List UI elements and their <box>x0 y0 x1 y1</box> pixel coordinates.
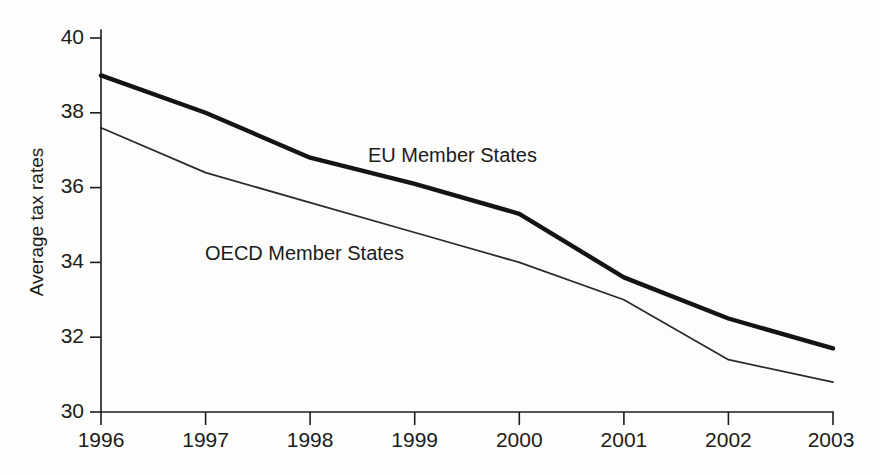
chart-figure: 40 38 36 34 32 30 1996 1997 1998 1999 20… <box>0 0 880 475</box>
y-tick-label-34: 34 <box>61 249 85 272</box>
y-axis-title: Average tax rates <box>26 148 47 297</box>
x-tick-label-1998: 1998 <box>287 428 334 451</box>
y-tick-label-36: 36 <box>61 174 84 197</box>
x-tick-label-1999: 1999 <box>391 428 438 451</box>
series-label-eu-member-states: EU Member States <box>368 144 537 166</box>
y-tick-label-30: 30 <box>61 399 84 422</box>
y-tick-label-32: 32 <box>61 324 84 347</box>
y-tick-label-40: 40 <box>61 25 84 48</box>
x-tick-label-2001: 2001 <box>601 428 648 451</box>
chart-background <box>0 0 880 475</box>
x-tick-label-1997: 1997 <box>182 428 229 451</box>
x-tick-label-1996: 1996 <box>78 428 125 451</box>
x-tick-label-2003: 2003 <box>808 428 855 451</box>
x-tick-label-2000: 2000 <box>496 428 543 451</box>
y-tick-label-38: 38 <box>61 99 84 122</box>
x-tick-label-2002: 2002 <box>705 428 752 451</box>
line-chart: 40 38 36 34 32 30 1996 1997 1998 1999 20… <box>0 0 880 475</box>
series-label-oecd-member-states: OECD Member States <box>205 242 404 264</box>
